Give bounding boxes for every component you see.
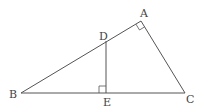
segment-ca bbox=[141, 21, 185, 93]
segment-ab bbox=[21, 21, 141, 93]
label-e: E bbox=[103, 96, 111, 109]
triangle-diagram: A B C D E bbox=[0, 0, 208, 112]
label-b: B bbox=[9, 88, 17, 101]
label-a: A bbox=[139, 7, 149, 20]
label-c: C bbox=[186, 93, 194, 106]
right-angle-mark-e bbox=[99, 86, 106, 93]
label-d: D bbox=[99, 30, 108, 43]
